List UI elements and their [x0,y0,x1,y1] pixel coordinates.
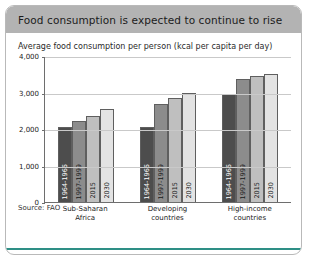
x-axis-group-label: High-incomecountries [210,205,290,222]
page-title: Food consumption is expected to continue… [18,14,282,26]
bar-label: 1997-1999 [75,164,83,199]
card-header: Food consumption is expected to continue… [6,6,301,33]
bar-label: 1964-1966 [61,164,69,199]
bar: 2030 [182,93,196,202]
y-axis: 01,0002,0003,0004,000 [16,57,42,203]
chart-plot-area: 01,0002,0003,0004,000 1964-19661997-1999… [16,57,291,225]
bar: 1964-1966 [58,127,72,202]
y-axis-tickmark [42,57,45,58]
bar: 1997-1999 [236,79,250,202]
y-axis-tickmark [42,94,45,95]
gridline [45,94,291,95]
bar: 2015 [250,76,264,202]
bar-label: 2015 [89,182,97,199]
x-axis-group-label-line2: Africa [75,214,95,222]
bottom-accent-rule [6,248,301,250]
bar-label: 2015 [253,182,261,199]
card-body: Average food consumption per person (kca… [6,33,301,225]
y-axis-tickmark [42,167,45,168]
bar: 1964-1966 [222,94,236,202]
y-axis-tickmark [42,130,45,131]
chart-card: Food consumption is expected to continue… [5,5,302,255]
y-axis-tick-label: 3,000 [19,90,39,98]
bar-label: 2030 [103,182,111,199]
y-axis-tick-label: 2,000 [19,126,39,134]
bar-label: 2030 [267,182,275,199]
gridline [45,167,291,168]
x-axis-group-label-line1: Developing [148,205,188,213]
source-note: Source: FAO [18,204,60,212]
y-axis-tick-label: 4,000 [19,53,39,61]
x-axis-group-label-line2: countries [151,214,184,222]
chart-subtitle: Average food consumption per person (kca… [18,42,291,51]
bar-label: 1997-1999 [239,164,247,199]
bar-label: 1964-1966 [143,164,151,199]
bar: 1964-1966 [140,127,154,202]
bar-label: 2015 [171,182,179,199]
x-axis-group-label: Developingcountries [127,205,207,222]
bar: 2015 [86,116,100,202]
bar: 1997-1999 [72,121,86,202]
y-axis-tick-label: 1,000 [19,163,39,171]
x-axis-group-label-line1: Sub-Saharan [63,205,108,213]
plot-canvas: 1964-19661997-1999201520301964-19661997-… [44,57,291,203]
bar-label: 1964-1966 [225,164,233,199]
x-axis-group-label-line2: countries [234,214,267,222]
x-axis-labels: Sub-SaharanAfricaDevelopingcountriesHigh… [44,205,291,222]
x-axis-group-label-line1: High-income [228,205,272,213]
bar: 2015 [168,98,182,202]
gridline [45,57,291,58]
bar-label: 2030 [185,182,193,199]
bar: 2030 [100,109,114,202]
bar-label: 1997-1999 [157,164,165,199]
bar: 1997-1999 [154,104,168,202]
gridline [45,130,291,131]
